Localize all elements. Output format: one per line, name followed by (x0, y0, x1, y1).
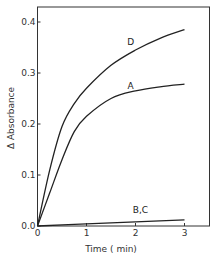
y-tick-label: 0.3 (21, 68, 35, 78)
y-axis-title: Δ Absorbance (6, 86, 16, 149)
curve-label: A (128, 81, 135, 91)
x-tick-label: 0 (35, 228, 41, 238)
absorbance-chart: 0.00.10.20.30.4 0123 DAB,C Time ( min) Δ… (0, 0, 215, 260)
y-tick-label: 0.1 (21, 170, 35, 180)
curve-bc (38, 220, 185, 226)
x-tick-label: 3 (182, 228, 188, 238)
curve-label: B,C (133, 205, 148, 215)
curve-a (38, 84, 185, 226)
x-axis-title: Time ( min) (84, 244, 137, 254)
y-tick-label: 0.0 (21, 221, 36, 231)
x-tick-label: 1 (84, 228, 90, 238)
curve-label: D (127, 37, 134, 47)
y-tick-label: 0.2 (21, 119, 35, 129)
y-tick-label: 0.4 (21, 17, 36, 27)
data-curves (38, 30, 185, 226)
curve-labels: DAB,C (127, 37, 148, 215)
x-tick-label: 2 (133, 228, 139, 238)
plot-frame (38, 7, 210, 226)
curve-d (38, 30, 185, 226)
